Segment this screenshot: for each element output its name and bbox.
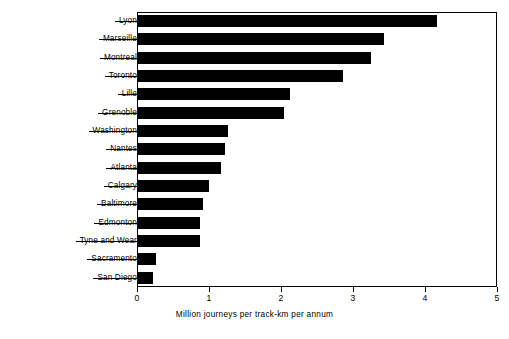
bar-row: Lille — [0, 85, 509, 103]
label-leader-line — [118, 94, 137, 95]
label-leader-line — [93, 278, 137, 279]
bar — [137, 15, 437, 27]
bar — [137, 217, 200, 229]
bar — [137, 125, 228, 137]
bar — [137, 33, 384, 45]
bar — [137, 272, 153, 284]
x-tick — [497, 287, 498, 292]
label-leader-line — [87, 259, 137, 260]
bar-chart: LyonMarseilleMontrealTorontoLilleGrenobl… — [0, 0, 509, 339]
bar — [137, 107, 284, 119]
label-leader-line — [115, 21, 137, 22]
x-tick — [353, 287, 354, 292]
x-tick-label: 3 — [351, 294, 356, 303]
bar — [137, 143, 225, 155]
x-tick — [425, 287, 426, 292]
bar-row: Baltimore — [0, 195, 509, 213]
label-leader-line — [104, 186, 137, 187]
bar-row: Calgary — [0, 177, 509, 195]
bar-row: Montreal — [0, 49, 509, 67]
label-leader-line — [98, 113, 137, 114]
bar-row: Atlanta — [0, 159, 509, 177]
label-leader-line — [105, 76, 137, 77]
label-leader-line — [94, 223, 137, 224]
x-tick — [209, 287, 210, 292]
bar-row: Washington — [0, 122, 509, 140]
x-tick — [281, 287, 282, 292]
label-leader-line — [106, 168, 137, 169]
bar-row: Grenoble — [0, 104, 509, 122]
x-tick-label: 5 — [495, 294, 500, 303]
label-leader-line — [100, 58, 137, 59]
label-leader-line — [99, 39, 137, 40]
x-tick-label: 2 — [279, 294, 284, 303]
label-leader-line — [106, 149, 137, 150]
bar-rows: LyonMarseilleMontrealTorontoLilleGrenobl… — [0, 12, 509, 287]
x-tick-label: 1 — [207, 294, 212, 303]
bar — [137, 180, 209, 192]
bar-row: Sacramento — [0, 250, 509, 268]
label-leader-line — [89, 131, 137, 132]
x-axis-title: Million journeys per track-km per annum — [0, 310, 509, 319]
bar — [137, 235, 200, 247]
bar — [137, 88, 290, 100]
category-label-group: Lille — [0, 85, 137, 103]
bar — [137, 198, 203, 210]
bar-row: Marseille — [0, 30, 509, 48]
bar — [137, 70, 343, 82]
x-tick-label: 0 — [135, 294, 140, 303]
bar — [137, 253, 156, 265]
bar — [137, 162, 221, 174]
x-tick — [137, 287, 138, 292]
bar-row: San Diego — [0, 269, 509, 287]
bar-row: Edmonton — [0, 214, 509, 232]
bar-row: Tyne and Wear — [0, 232, 509, 250]
label-leader-line — [76, 241, 137, 242]
x-axis: 012345 — [0, 287, 509, 311]
x-axis-title-text: Million journeys per track-km per annum — [176, 310, 333, 319]
bar-row: Toronto — [0, 67, 509, 85]
bar-row: Lyon — [0, 12, 509, 30]
label-leader-line — [97, 204, 137, 205]
x-tick-label: 4 — [423, 294, 428, 303]
bar — [137, 52, 371, 64]
bar-row: Nantes — [0, 140, 509, 158]
